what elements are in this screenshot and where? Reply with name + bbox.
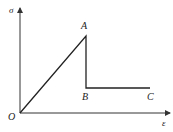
point-label-a: A — [80, 20, 88, 31]
x-axis-label: ε — [162, 118, 166, 128]
point-label-o: O — [8, 111, 15, 122]
point-label-b: B — [82, 91, 88, 102]
y-axis-label: σ — [9, 5, 14, 15]
point-label-c: C — [147, 91, 154, 102]
stress-strain-diagram: σ ε O A B C — [0, 0, 173, 132]
